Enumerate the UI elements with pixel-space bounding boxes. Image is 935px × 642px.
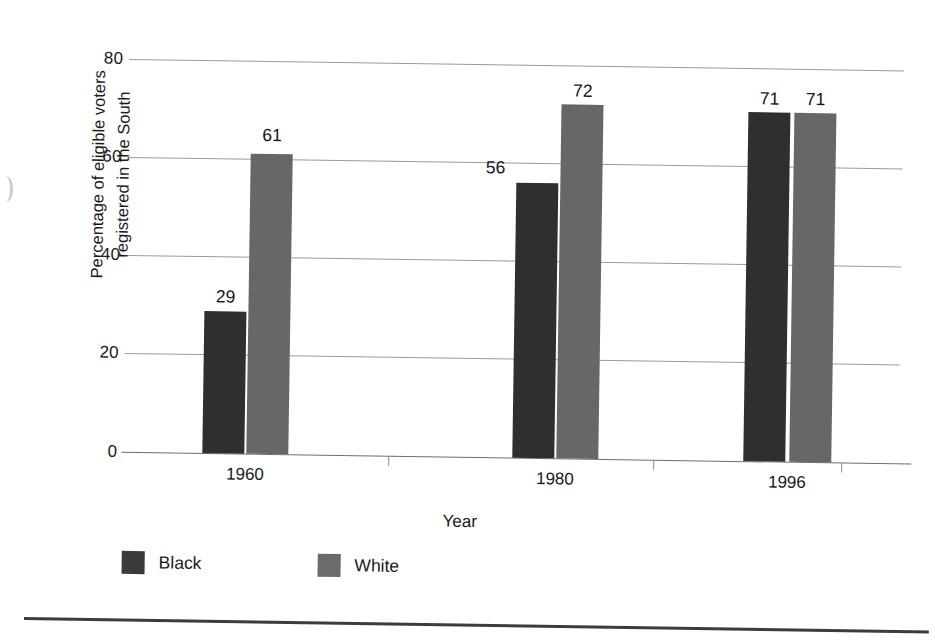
x-category-label-1960: 1960 (202, 465, 288, 483)
y-tick-20: 20 (79, 352, 119, 354)
chart-skew-wrapper: 80 60 40 20 0 29 61 (0, 0, 935, 642)
bar-1996-white[interactable] (789, 113, 836, 463)
bar-value-1996-white: 71 (794, 91, 836, 109)
bar-1960-black[interactable] (202, 311, 246, 454)
bar-1980-white[interactable] (556, 104, 603, 459)
x-axis-tick-1 (388, 457, 389, 466)
legend-swatch-black-icon (122, 551, 145, 574)
y-axis-title: Percentage of eligible voters registered… (83, 9, 137, 340)
legend-label-white: White (354, 557, 399, 575)
legend-item-black[interactable]: Black (122, 551, 202, 575)
y-tick-0: 0 (77, 451, 117, 453)
y-tick-label-0: 0 (77, 442, 117, 460)
bar-group-1960 (202, 33, 294, 454)
legend-swatch-white-icon (317, 554, 340, 577)
bar-1980-black[interactable] (512, 183, 558, 459)
y-axis-title-line2: registered in the South (112, 91, 132, 257)
bar-1996-black[interactable] (743, 112, 790, 462)
plot-area: 80 60 40 20 0 29 61 (0, 0, 935, 642)
x-category-label-1980: 1980 (512, 470, 598, 488)
y-tick-label-20: 20 (79, 343, 119, 361)
x-axis-tick-3 (841, 464, 842, 473)
bar-chart-figure: 80 60 40 20 0 29 61 (0, 0, 935, 642)
bar-1960-white[interactable] (246, 154, 292, 455)
y-axis-title-line1: Percentage of eligible voters (87, 70, 108, 278)
bar-group-1980 (512, 38, 604, 459)
x-axis-title: Year (0, 505, 927, 539)
bar-value-1996-black: 71 (748, 90, 790, 108)
x-axis-tick-2 (653, 461, 654, 470)
legend-label-black: Black (159, 554, 202, 572)
bar-value-1960-white: 61 (251, 127, 293, 145)
bar-value-1980-black: 56 (474, 159, 516, 177)
legend-item-white[interactable]: White (317, 554, 399, 578)
x-category-label-1996: 1996 (743, 473, 831, 491)
bar-value-1960-black: 29 (204, 288, 246, 306)
bar-value-1980-white: 72 (562, 82, 604, 100)
chart-legend: Black White (122, 551, 400, 578)
